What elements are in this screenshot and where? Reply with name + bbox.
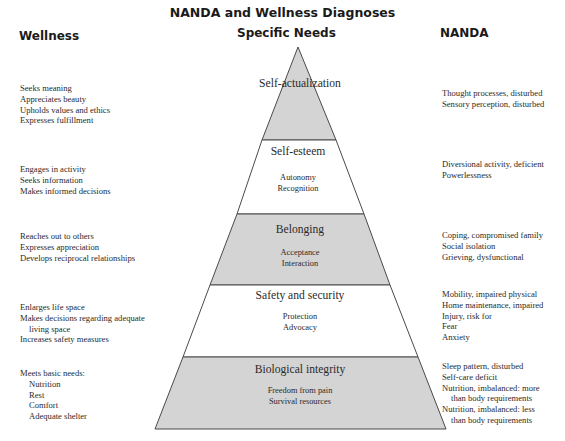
nanda-list-self-actualization: Thought processes, disturbed Sensory per… <box>442 88 544 110</box>
wellness-list-safety-security: Enlarges life space Makes decisions rega… <box>20 302 145 345</box>
wellness-item: Meets basic needs: <box>20 368 87 379</box>
wellness-item: Increases safety measures <box>20 334 145 345</box>
need-item: Interaction <box>200 258 400 269</box>
wellness-item: Expresses fulfillment <box>20 115 110 126</box>
nanda-item: Home maintenance, impaired <box>442 300 543 311</box>
nanda-list-self-esteem: Diversional activity, deficient Powerles… <box>442 159 544 181</box>
level-title-self-actualization: Self-actualization <box>200 77 400 90</box>
level-needs-self-esteem: Autonomy Recognition <box>200 172 396 194</box>
wellness-item: Nutrition <box>20 379 87 390</box>
wellness-item: Reaches out to others <box>20 231 135 242</box>
nanda-list-biological-integrity: Sleep pattern, disturbed Self-care defic… <box>442 361 540 426</box>
wellness-list-self-esteem: Engages in activity Seeks information Ma… <box>20 164 111 196</box>
wellness-item: Makes informed decisions <box>20 186 111 197</box>
nanda-list-belonging: Coping, compromised family Social isolat… <box>442 230 543 262</box>
level-needs-belonging: Acceptance Interaction <box>200 247 400 269</box>
wellness-item: Comfort <box>20 400 87 411</box>
level-title-biological-integrity: Biological integrity <box>200 363 400 376</box>
nanda-item: Sensory perception, disturbed <box>442 99 544 110</box>
nanda-item: Grieving, dysfunctional <box>442 252 543 263</box>
wellness-item: Makes decisions regarding adequate <box>20 313 145 324</box>
level-needs-safety-security: Protection Advocacy <box>200 311 400 333</box>
need-item: Acceptance <box>200 247 400 258</box>
nanda-item: Anxiety <box>442 332 543 343</box>
need-item: Freedom from pain <box>200 385 400 396</box>
nanda-item: than body requirements <box>442 415 540 426</box>
wellness-item: Enlarges life space <box>20 302 145 313</box>
wellness-item: living space <box>20 324 145 335</box>
nanda-item: Injury, risk for <box>442 311 543 322</box>
nanda-item: Mobility, impaired physical <box>442 289 543 300</box>
nanda-item: Sleep pattern, disturbed <box>442 361 540 372</box>
level-title-self-esteem: Self-esteem <box>200 145 396 158</box>
wellness-item: Seeks meaning <box>20 83 110 94</box>
wellness-item: Rest <box>20 390 87 401</box>
nanda-list-safety-security: Mobility, impaired physical Home mainten… <box>442 289 543 343</box>
nanda-item: Thought processes, disturbed <box>442 88 544 99</box>
wellness-list-belonging: Reaches out to others Expresses apprecia… <box>20 231 135 263</box>
nanda-item: Fear <box>442 321 543 332</box>
nanda-item: Social isolation <box>442 241 543 252</box>
need-item: Recognition <box>200 183 396 194</box>
wellness-item: Seeks information <box>20 175 111 186</box>
wellness-item: Upholds values and ethics <box>20 105 110 116</box>
nanda-item: than body requirements <box>442 393 540 404</box>
level-title-safety-security: Safety and security <box>200 289 400 302</box>
level-title-belonging: Belonging <box>200 223 400 236</box>
nanda-item: Nutrition, imbalanced: more <box>442 383 540 394</box>
nanda-item: Nutrition, imbalanced: less <box>442 404 540 415</box>
nanda-item: Self-care deficit <box>442 372 540 383</box>
nanda-item: Diversional activity, deficient <box>442 159 544 170</box>
need-item: Protection <box>200 311 400 322</box>
wellness-item: Expresses appreciation <box>20 242 135 253</box>
wellness-list-biological-integrity: Meets basic needs: Nutrition Rest Comfor… <box>20 368 87 422</box>
wellness-item: Adequate shelter <box>20 411 87 422</box>
need-item: Advocacy <box>200 322 400 333</box>
need-item: Survival resources <box>200 396 400 407</box>
wellness-list-self-actualization: Seeks meaning Appreciates beauty Upholds… <box>20 83 110 126</box>
wellness-item: Appreciates beauty <box>20 94 110 105</box>
pyramid-band-self-actualization <box>262 47 336 140</box>
wellness-item: Engages in activity <box>20 164 111 175</box>
nanda-item: Coping, compromised family <box>442 230 543 241</box>
nanda-item: Powerlessness <box>442 170 544 181</box>
wellness-item: Develops reciprocal relationships <box>20 253 135 264</box>
need-item: Autonomy <box>200 172 396 183</box>
level-needs-biological-integrity: Freedom from pain Survival resources <box>200 385 400 407</box>
